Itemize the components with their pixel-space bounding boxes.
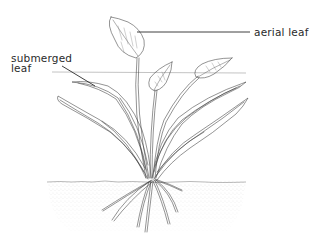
submerged-leaf-label-line2: leaf	[11, 63, 81, 73]
submerged-leaves	[58, 82, 249, 181]
aerial-leaf-right	[195, 58, 232, 78]
aerial-leaf-label: aerial leaf	[254, 27, 309, 37]
submerged-leaf-label: submerged leaf	[11, 53, 81, 73]
aerial-leaf-main	[109, 17, 144, 58]
aerial-leaf-middle	[149, 62, 172, 91]
